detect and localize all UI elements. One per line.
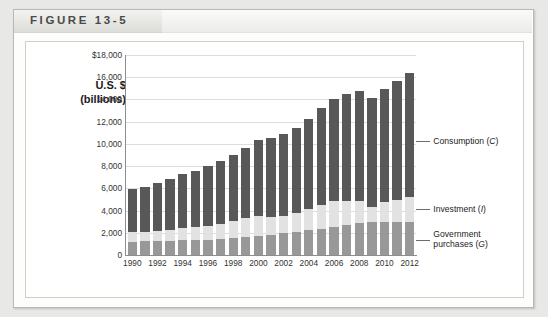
bar-segment-investment xyxy=(342,201,351,226)
bar-segment-government xyxy=(241,237,250,255)
bar-segment-investment xyxy=(140,232,149,241)
bar-segment-investment xyxy=(279,216,288,233)
bar-segment-investment xyxy=(178,228,187,240)
bar-segment-government xyxy=(128,242,137,255)
bar-2005 xyxy=(317,108,326,255)
bar-segment-investment xyxy=(128,232,137,242)
bar-segment-investment xyxy=(266,217,275,235)
y-axis-tick-label: 4,000 xyxy=(101,206,122,216)
bar-segment-government xyxy=(191,240,200,255)
callout-investment: Investment (I) xyxy=(433,204,486,215)
y-axis-line xyxy=(125,55,126,256)
bar-segment-consumption xyxy=(128,189,137,233)
bar-segment-government xyxy=(317,229,326,255)
x-axis-tick-label: 1992 xyxy=(144,258,172,268)
leader-line-investment xyxy=(416,209,430,210)
x-axis-tick-label: 1994 xyxy=(169,258,197,268)
bar-segment-consumption xyxy=(266,138,275,216)
callout-consumption: Consumption (C) xyxy=(433,136,498,147)
gridline xyxy=(126,77,416,78)
bar-segment-government xyxy=(140,241,149,255)
bar-segment-investment xyxy=(191,227,200,240)
bar-segment-investment xyxy=(329,201,338,227)
bar-segment-government xyxy=(405,222,414,255)
callout-government: Governmentpurchases (G) xyxy=(433,229,487,250)
leader-line-consumption xyxy=(416,141,430,142)
bar-segment-investment xyxy=(317,205,326,229)
x-axis-tick-label: 2000 xyxy=(244,258,272,268)
bar-2003 xyxy=(292,128,301,255)
bar-2009 xyxy=(367,98,376,255)
x-axis-tick-label: 2010 xyxy=(370,258,398,268)
bar-segment-government xyxy=(279,233,288,255)
bar-segment-investment xyxy=(380,202,389,222)
bar-segment-consumption xyxy=(153,183,162,231)
bar-segment-consumption xyxy=(216,161,225,223)
chart-panel: U.S. $ (billions) 02,0004,0006,0008,0001… xyxy=(25,41,524,298)
bar-segment-investment xyxy=(203,226,212,240)
bar-2011 xyxy=(392,81,401,255)
bar-2001 xyxy=(266,138,275,255)
bar-segment-government xyxy=(153,241,162,255)
bar-segment-consumption xyxy=(254,140,263,215)
bar-2004 xyxy=(304,119,313,255)
bar-2010 xyxy=(380,89,389,255)
bar-segment-consumption xyxy=(203,166,212,225)
bar-segment-government xyxy=(355,223,364,255)
bar-segment-consumption xyxy=(342,94,351,201)
bar-2007 xyxy=(342,94,351,255)
bar-2008 xyxy=(355,91,364,255)
bar-segment-government xyxy=(392,222,401,255)
bar-1992 xyxy=(153,183,162,255)
bar-1990 xyxy=(128,189,137,255)
bar-1994 xyxy=(178,174,187,255)
bar-segment-consumption xyxy=(392,81,401,200)
bar-segment-investment xyxy=(153,231,162,241)
bar-segment-investment xyxy=(355,201,364,223)
x-axis-line xyxy=(125,255,417,256)
y-axis-tick-label: 6,000 xyxy=(101,183,122,193)
bar-segment-consumption xyxy=(304,119,313,210)
bar-1997 xyxy=(216,161,225,255)
bar-segment-government xyxy=(229,238,238,255)
bar-segment-government xyxy=(367,222,376,255)
bar-segment-consumption xyxy=(329,99,338,201)
bar-segment-consumption xyxy=(140,187,149,233)
y-axis-tick-label: 14,000 xyxy=(97,94,122,104)
bar-segment-government xyxy=(165,241,174,255)
figure-card: FIGURE 13-5 U.S. $ (billions) 02,0004,00… xyxy=(13,9,534,308)
bar-segment-consumption xyxy=(229,155,238,221)
bar-1991 xyxy=(140,187,149,255)
bar-segment-investment xyxy=(292,213,301,232)
x-axis-tick-label: 1996 xyxy=(194,258,222,268)
bar-segment-consumption xyxy=(292,128,301,214)
bar-segment-investment xyxy=(165,230,174,241)
x-axis-tick-label: 1998 xyxy=(219,258,247,268)
x-axis-tick-label: 2002 xyxy=(270,258,298,268)
bar-1996 xyxy=(203,166,212,255)
bar-segment-consumption xyxy=(367,98,376,207)
bar-segment-government xyxy=(266,235,275,255)
bar-segment-consumption xyxy=(380,89,389,202)
bar-2002 xyxy=(279,134,288,255)
bar-segment-investment xyxy=(367,207,376,222)
bar-segment-consumption xyxy=(241,148,250,218)
bar-1998 xyxy=(229,155,238,255)
y-axis-tick-label: 10,000 xyxy=(97,139,122,149)
gridline xyxy=(126,55,416,56)
bar-segment-consumption xyxy=(279,134,288,216)
figure-header-band-filler xyxy=(162,10,532,33)
bar-segment-consumption xyxy=(405,73,414,197)
y-axis-tick-label: $18,000 xyxy=(92,50,122,60)
bar-segment-government xyxy=(304,230,313,255)
bar-segment-investment xyxy=(216,224,225,239)
figure-root: FIGURE 13-5 U.S. $ (billions) 02,0004,00… xyxy=(0,0,548,317)
bar-1995 xyxy=(191,171,200,255)
x-axis-tick-label: 2006 xyxy=(320,258,348,268)
bar-segment-consumption xyxy=(191,171,200,227)
bar-segment-government xyxy=(380,222,389,255)
bar-segment-investment xyxy=(405,197,414,222)
bar-1993 xyxy=(165,179,174,255)
y-axis-tick-label: 8,000 xyxy=(101,161,122,171)
bar-2006 xyxy=(329,99,338,255)
